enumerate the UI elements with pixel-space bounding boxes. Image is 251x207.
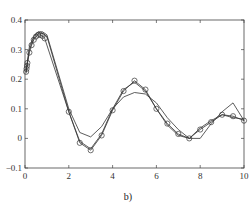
series-layer (23, 32, 246, 153)
x-tick-label: 2 (67, 171, 72, 181)
y-tick-label: 0.2 (11, 74, 22, 84)
y-tick-label: 0.3 (11, 45, 23, 55)
x-tick-label: 8 (198, 171, 203, 181)
plot-frame (25, 20, 244, 168)
x-tick-label: 10 (240, 171, 250, 181)
y-tick-label: 0 (18, 133, 23, 143)
y-tick-label: 0.4 (11, 15, 23, 25)
chart: 0246810−0.100.10.20.30.4 b) (0, 0, 251, 207)
chart-caption: b) (124, 191, 132, 203)
x-tick-label: 0 (23, 171, 28, 181)
x-tick-label: 4 (110, 171, 115, 181)
axes: 0246810−0.100.10.20.30.4 (6, 15, 249, 181)
series-line-model-a (26, 33, 244, 149)
y-tick-label: 0.1 (11, 104, 22, 114)
y-tick-label: −0.1 (6, 163, 22, 173)
x-tick-label: 6 (154, 171, 159, 181)
